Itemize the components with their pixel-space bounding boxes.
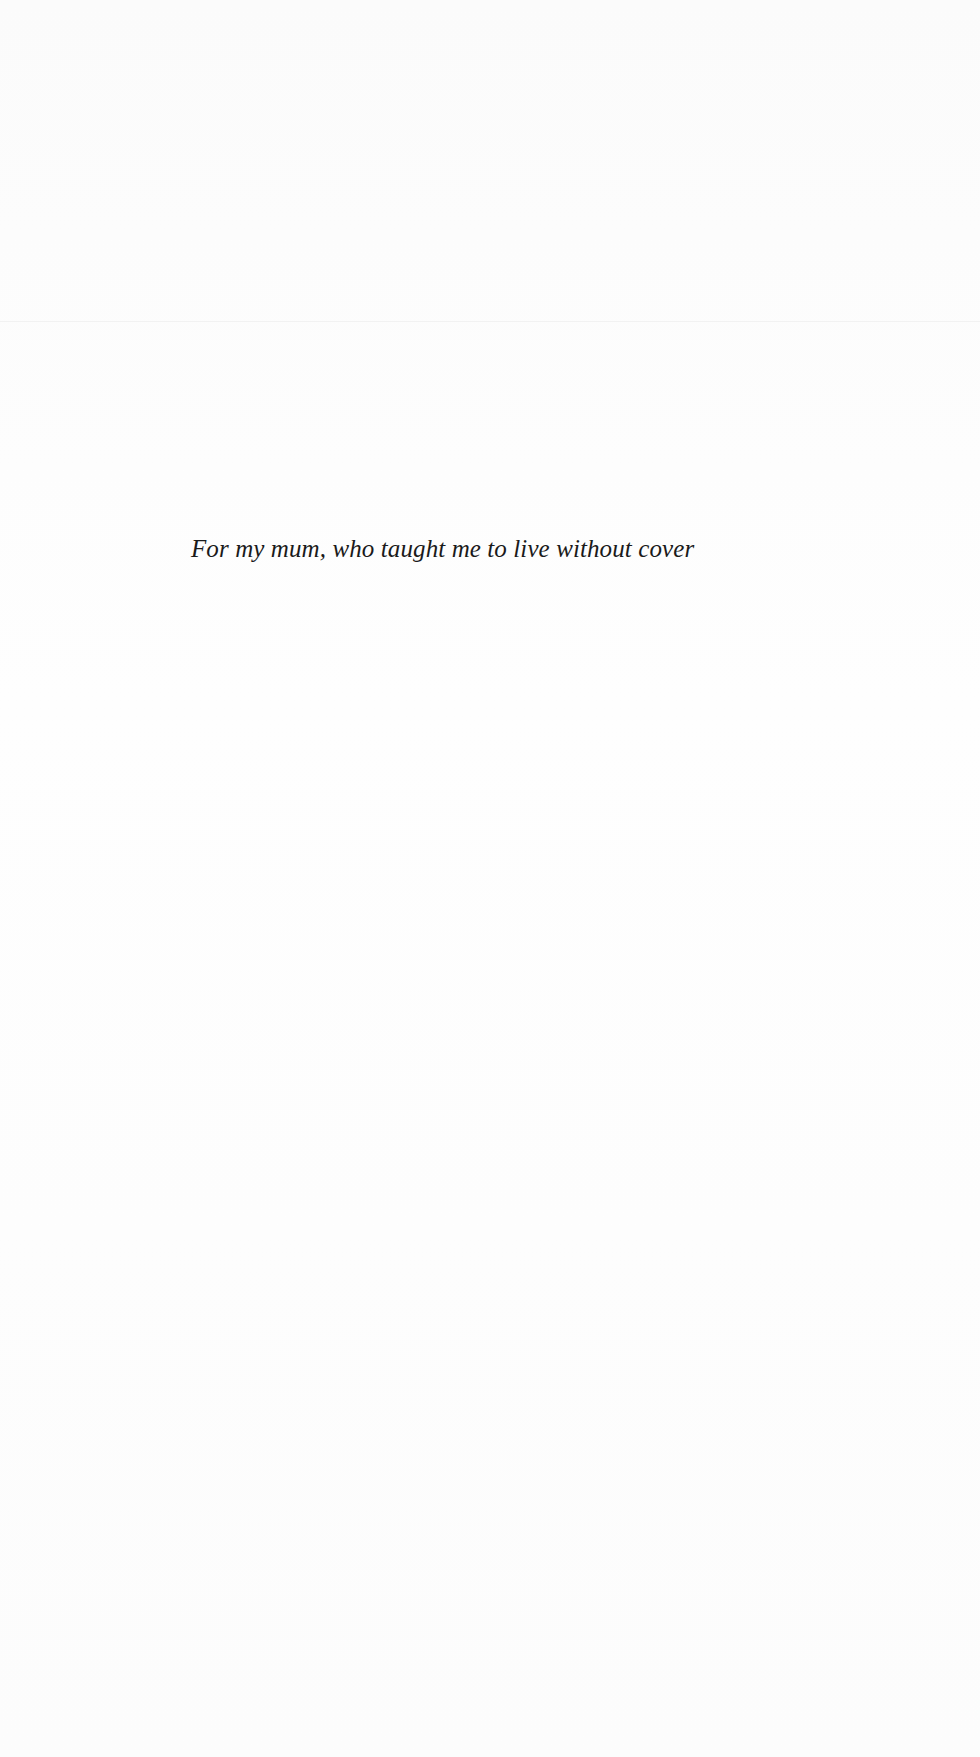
dedication-text: For my mum, who taught me to live withou… xyxy=(191,535,694,563)
page-divider xyxy=(0,321,980,322)
book-page: For my mum, who taught me to live withou… xyxy=(0,0,980,1757)
